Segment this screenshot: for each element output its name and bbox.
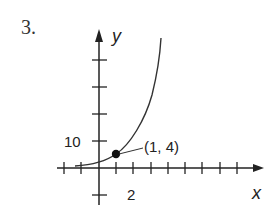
y-tick-label: 10 (64, 133, 81, 150)
x-tick-label: 2 (127, 186, 135, 203)
x-axis-label: x (251, 183, 262, 203)
point-label: (1, 4) (144, 138, 179, 155)
y-axis-label: y (110, 26, 122, 46)
x-axis (57, 162, 264, 174)
graph: (1, 4) 10 2 y x (0, 0, 276, 205)
point-marker (112, 150, 120, 158)
y-axis-arrow-icon (95, 29, 103, 42)
y-axis (92, 29, 107, 205)
x-axis-arrow-icon (253, 164, 264, 172)
